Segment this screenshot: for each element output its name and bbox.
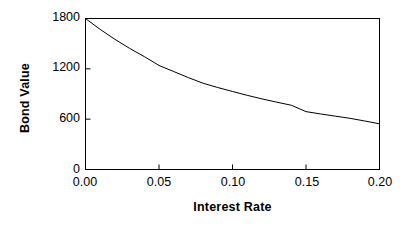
y-tick-marks: [86, 19, 91, 170]
data-series-bond-value: [86, 19, 380, 124]
plot-area: [0, 0, 414, 229]
chart-figure: Bond Value 0 600 1200 1800 0.00 0.05 0.1…: [0, 0, 414, 229]
plot-frame: [86, 19, 380, 170]
x-tick-marks: [86, 165, 380, 170]
